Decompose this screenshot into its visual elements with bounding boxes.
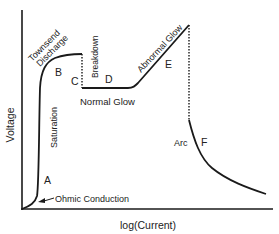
abnormal-glow-label: Abnormal Glow — [135, 22, 185, 74]
ohmic-arrow-head — [38, 198, 45, 203]
ohmic-conduction-label: Ohmic Conduction — [55, 194, 129, 204]
x-axis-label: log(Current) — [120, 219, 176, 231]
region-letter-a: A — [44, 174, 51, 186]
region-letter-e: E — [165, 58, 172, 70]
gas-discharge-vi-diagram: Voltage log(Current) Townsend Discharge … — [0, 0, 279, 234]
saturation-label: Saturation — [49, 107, 59, 148]
region-letter-b: B — [55, 66, 62, 78]
region-letter-d: D — [105, 73, 113, 85]
region-letter-c: C — [71, 75, 79, 87]
region-letter-f: F — [201, 136, 207, 148]
y-axis-label: Voltage — [4, 107, 16, 142]
ohmic-arrow-line — [44, 198, 54, 201]
normal-glow-label: Normal Glow — [80, 96, 135, 107]
arc-label: Arc — [174, 138, 188, 148]
curve-arc — [189, 120, 266, 194]
breakdown-label: Breakdown — [90, 35, 100, 78]
